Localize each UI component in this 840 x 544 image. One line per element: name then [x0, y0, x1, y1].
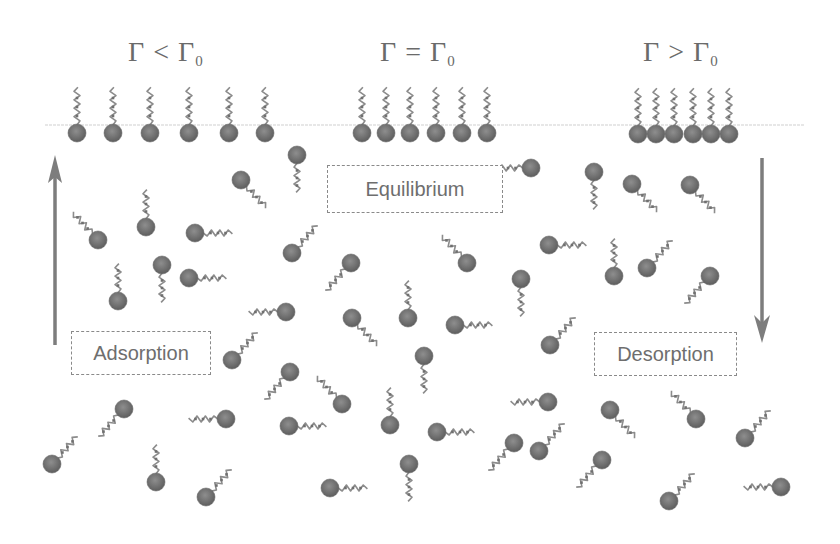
title-equilibrium: Γ = Γ0 — [380, 36, 456, 70]
head-icon — [512, 270, 530, 288]
adsorbed-surfactant — [427, 87, 445, 142]
free-surfactant — [511, 393, 557, 411]
free-surfactant — [660, 474, 695, 510]
head-icon — [687, 410, 705, 428]
adsorbed-monolayers — [68, 87, 738, 143]
adsorption-label: Adsorption — [71, 331, 211, 375]
free-surfactant — [381, 388, 399, 434]
head-icon — [288, 146, 306, 164]
free-surfactant — [744, 478, 790, 496]
monolayer-monolayer — [353, 87, 496, 142]
subscript-zero: 0 — [195, 53, 204, 69]
adsorption-arrow-icon — [48, 155, 62, 345]
head-icon — [137, 218, 155, 236]
adsorbed-surfactant — [401, 87, 419, 142]
free-surfactant — [736, 411, 771, 447]
adsorbed-surfactant — [453, 87, 471, 142]
adsorbed-surfactant — [377, 87, 395, 142]
head-icon — [772, 478, 790, 496]
adsorbed-surfactant — [220, 87, 238, 142]
head-icon — [522, 159, 540, 177]
subscript-zero: 0 — [447, 53, 456, 69]
gamma-symbol: Γ — [128, 36, 145, 67]
head-icon — [353, 124, 371, 142]
free-surfactant — [540, 236, 586, 254]
head-icon — [660, 492, 678, 510]
adsorbed-surfactant — [665, 88, 683, 143]
relation-equal: = — [405, 36, 422, 67]
adsorbed-surfactant — [180, 87, 198, 142]
adsorbed-surfactant — [68, 87, 86, 142]
head-icon — [428, 423, 446, 441]
subscript-zero: 0 — [710, 53, 719, 69]
free-surfactant — [249, 303, 295, 321]
desorption-text: Desorption — [617, 343, 714, 366]
head-icon — [720, 125, 738, 143]
free-surfactant — [321, 479, 367, 497]
monolayer-crowded — [629, 88, 738, 143]
free-surfactant — [446, 316, 492, 334]
head-icon — [401, 124, 419, 142]
head-icon — [147, 473, 165, 491]
head-icon — [540, 236, 558, 254]
gamma-ref: Γ — [178, 36, 195, 67]
head-icon — [638, 259, 656, 277]
desorption-label: Desorption — [594, 332, 737, 376]
head-icon — [702, 125, 720, 143]
head-icon — [585, 163, 603, 181]
head-icon — [399, 309, 417, 327]
adsorbed-surfactant — [720, 88, 738, 143]
head-icon — [180, 124, 198, 142]
head-icon — [701, 267, 719, 285]
free-surfactant — [317, 376, 351, 413]
head-icon — [530, 442, 548, 460]
head-icon — [153, 256, 171, 274]
free-surfactant — [264, 363, 299, 399]
free-surfactant — [180, 269, 226, 287]
relation-less-than: < — [153, 36, 170, 67]
free-surfactant — [223, 333, 258, 369]
free-surfactant — [638, 241, 673, 277]
head-icon — [400, 455, 418, 473]
free-surfactant — [576, 451, 611, 487]
free-surfactant — [399, 281, 417, 327]
adsorbed-surfactant — [629, 88, 647, 143]
head-icon — [281, 363, 299, 381]
head-icon — [446, 316, 464, 334]
free-surfactant — [137, 190, 155, 236]
head-icon — [605, 267, 623, 285]
free-surfactant — [325, 254, 360, 290]
monolayer-sparse — [68, 87, 274, 142]
head-icon — [186, 224, 204, 242]
head-icon — [141, 124, 159, 142]
free-surfactant — [343, 309, 377, 346]
head-icon — [280, 417, 298, 435]
head-icon — [277, 303, 295, 321]
gamma-symbol: Γ — [643, 36, 660, 67]
head-icon — [623, 175, 641, 193]
head-icon — [343, 309, 361, 327]
head-icon — [458, 254, 476, 272]
gamma-symbol: Γ — [380, 36, 397, 67]
free-surfactant — [671, 391, 705, 428]
diagram-canvas — [0, 0, 840, 544]
adsorbed-surfactant — [353, 87, 371, 142]
free-surfactant — [153, 256, 171, 302]
free-surfactant — [512, 270, 530, 316]
free-surfactant — [189, 410, 235, 428]
free-surfactant — [288, 146, 306, 192]
head-icon — [665, 125, 683, 143]
head-icon — [342, 254, 360, 272]
head-icon — [43, 455, 61, 473]
free-surfactant — [623, 175, 657, 212]
gamma-ref: Γ — [693, 36, 710, 67]
head-icon — [220, 124, 238, 142]
head-icon — [321, 479, 339, 497]
head-icon — [217, 410, 235, 428]
head-icon — [180, 269, 198, 287]
desorption-arrow-icon — [754, 158, 770, 343]
free-surfactant — [415, 347, 433, 393]
head-icon — [333, 395, 351, 413]
adsorbed-surfactant — [647, 88, 665, 143]
head-icon — [478, 124, 496, 142]
